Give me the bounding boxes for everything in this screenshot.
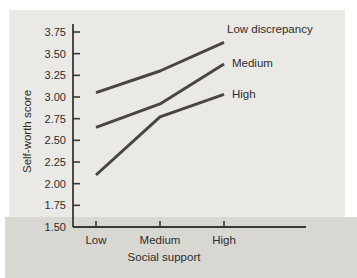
y-tick-label: 3.50 <box>45 48 66 60</box>
series-label-high: High <box>232 87 256 101</box>
self-worth-line-chart: 3.753.503.253.002.752.502.252.001.751.50… <box>0 0 357 278</box>
y-tick-label: 2.50 <box>45 134 66 146</box>
x-tick-label: Low <box>85 234 107 246</box>
x-tick-label: Medium <box>140 234 181 246</box>
x-axis-label: Social support <box>128 250 201 264</box>
figure-page: 3.753.503.253.002.752.502.252.001.751.50… <box>0 0 357 278</box>
y-tick-label: 1.75 <box>45 199 66 211</box>
y-axis-label: Self-worth score <box>20 90 34 173</box>
y-tick-label: 3.00 <box>45 91 66 103</box>
y-tick-label: 3.25 <box>45 69 66 81</box>
series-label-low-discrepancy: Low discrepancy <box>227 22 315 36</box>
series-lines <box>96 42 224 175</box>
y-tick-label: 1.50 <box>45 221 66 233</box>
x-tick-label: High <box>212 234 236 246</box>
series-line-low-discrepancy <box>96 42 224 92</box>
axes <box>73 24 306 227</box>
y-tick-label: 3.75 <box>45 26 66 38</box>
series-label-medium: Medium <box>232 56 273 70</box>
y-tick-label: 2.25 <box>45 156 66 168</box>
y-tick-label: 2.75 <box>45 113 66 125</box>
series-line-high <box>96 94 224 175</box>
y-tick-label: 2.00 <box>45 178 66 190</box>
